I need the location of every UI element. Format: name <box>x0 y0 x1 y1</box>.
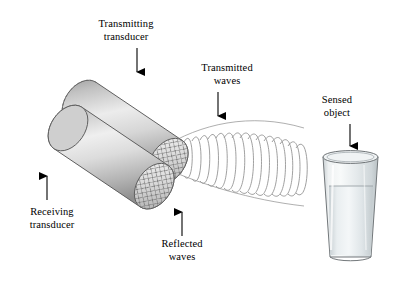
label-sensed-object: Sensed object <box>302 94 372 119</box>
label-receiving-transducer: Receiving transducer <box>6 206 98 231</box>
glass-base <box>330 257 371 261</box>
label-transmitted-waves: Transmitted waves <box>188 62 266 87</box>
drinking-glass <box>323 151 378 261</box>
label-transmitting-transducer: Transmitting transducer <box>78 18 174 43</box>
diagram-canvas: Transmitting transducer Transmitted wave… <box>0 0 403 292</box>
label-reflected-waves: Reflected waves <box>148 238 216 263</box>
